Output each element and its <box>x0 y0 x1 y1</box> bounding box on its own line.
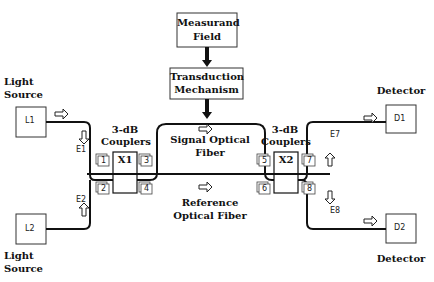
e2-label: E2 <box>76 195 86 204</box>
l2-label: L2 <box>25 224 35 233</box>
port-3: 3 <box>144 156 149 165</box>
port-8: 8 <box>307 184 312 193</box>
reference-fiber-line2: Optical Fiber <box>160 210 260 222</box>
detector-top-label: Detector <box>370 85 432 97</box>
light-source-top-line2: Source <box>4 89 44 101</box>
port-6: 6 <box>262 184 267 193</box>
light-source-bottom-line2: Source <box>4 263 44 275</box>
l1-label: L1 <box>25 116 35 125</box>
coupler-left-line2: Couplers <box>98 136 154 148</box>
e7-label: E7 <box>330 130 340 139</box>
signal-fiber-line1: Signal Optical <box>165 134 255 146</box>
e1-label: E1 <box>76 145 86 154</box>
detector-bottom-label: Detector <box>370 253 432 265</box>
light-source-top-line1: Light <box>4 76 40 88</box>
port-7: 7 <box>307 156 312 165</box>
measurand-line1: Measurand <box>177 17 237 29</box>
e8-label: E8 <box>330 206 340 215</box>
transduction-line2: Mechanism <box>170 84 243 96</box>
transduction-line1: Transduction <box>170 71 243 83</box>
d2-label: D2 <box>394 223 405 232</box>
coupler-right-line2: Couplers <box>258 136 314 148</box>
coupler-x1-symbol: X1 <box>113 154 137 166</box>
coupler-right-line1: 3-dB <box>260 124 310 136</box>
d1-label: D1 <box>394 114 405 123</box>
port-1: 1 <box>101 156 106 165</box>
port-4: 4 <box>144 184 149 193</box>
port-2: 2 <box>101 184 106 193</box>
port-5: 5 <box>262 156 267 165</box>
signal-fiber-line2: Fiber <box>165 147 255 159</box>
reference-fiber-line1: Reference <box>165 197 255 209</box>
coupler-x2-symbol: X2 <box>274 154 298 166</box>
light-source-bottom-line1: Light <box>4 250 40 262</box>
measurand-line2: Field <box>177 31 237 43</box>
coupler-left-line1: 3-dB <box>100 124 150 136</box>
